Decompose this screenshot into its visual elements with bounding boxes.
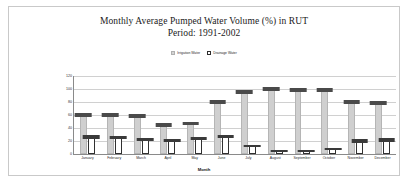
- bar-irrigation: [321, 90, 328, 154]
- legend-swatch-icon-irrigation: [171, 51, 175, 55]
- x-axis-tick-label: August: [270, 156, 281, 160]
- bar-drainage: [222, 136, 229, 154]
- bar-irrigation: [295, 90, 302, 154]
- x-axis-tick-label: September: [293, 156, 310, 160]
- error-bar-cap: [129, 114, 146, 118]
- y-axis-tick-label: 60: [68, 113, 72, 117]
- bar-drainage: [195, 139, 202, 154]
- bar-irrigation: [268, 89, 275, 154]
- bar-drainage: [115, 138, 122, 154]
- chart-legend: Irrigation Water Drainage Water: [9, 51, 399, 55]
- bar-group: November: [342, 76, 369, 154]
- chart-title-block: Monthly Average Pumped Water Volume (%) …: [9, 15, 399, 39]
- bar-drainage: [383, 140, 390, 154]
- error-bar-cap: [244, 145, 261, 147]
- x-axis-tick-label: February: [107, 156, 121, 160]
- bar-irrigation: [134, 116, 141, 154]
- y-axis-tick-label: 120: [66, 74, 72, 78]
- error-bar-cap: [182, 122, 199, 126]
- y-axis-tick-label: 100: [66, 87, 72, 91]
- bar-drainage: [88, 137, 95, 154]
- y-axis-tick-label: 80: [68, 100, 72, 104]
- legend-item-drainage: Drainage Water: [207, 51, 237, 55]
- error-bar-cap: [290, 88, 307, 92]
- error-bar-cap: [209, 100, 226, 104]
- x-axis-tick-label: July: [245, 156, 251, 160]
- error-bar-cap: [137, 138, 154, 142]
- plot-area: 020406080100120 JanuaryFebruaryMarchApri…: [73, 76, 396, 155]
- bar-group: June: [208, 76, 235, 154]
- legend-item-irrigation: Irrigation Water: [171, 51, 200, 55]
- legend-swatch-icon-drainage: [207, 51, 211, 55]
- error-bar-cap: [370, 101, 387, 105]
- x-axis-tick-label: October: [323, 156, 335, 160]
- error-bar-cap: [156, 123, 173, 127]
- y-axis-tick-label: 0: [70, 152, 72, 156]
- error-bar-cap: [190, 137, 207, 140]
- bar-irrigation: [348, 102, 355, 154]
- bar-irrigation: [107, 115, 114, 154]
- bar-group: September: [289, 76, 316, 154]
- error-bar-cap: [298, 150, 315, 152]
- error-bar-cap: [317, 88, 334, 92]
- error-bar-cap: [271, 150, 288, 152]
- bar-drainage: [249, 146, 256, 154]
- x-axis-tick-label: March: [136, 156, 146, 160]
- bar-drainage: [168, 141, 175, 154]
- x-axis-tick-label: January: [81, 156, 93, 160]
- chart-subtitle: Period: 1991-2002: [9, 27, 399, 39]
- bar-group: October: [315, 76, 342, 154]
- error-bar-cap: [75, 113, 92, 117]
- x-axis-tick-label: December: [374, 156, 390, 160]
- error-bar-cap: [378, 138, 395, 142]
- legend-label-drainage: Drainage Water: [213, 51, 237, 55]
- error-bar-cap: [236, 90, 253, 94]
- y-axis-tick-label: 40: [68, 126, 72, 130]
- x-axis-tick-label: June: [218, 156, 226, 160]
- bar-group: May: [181, 76, 208, 154]
- error-bar-cap: [217, 135, 234, 139]
- bar-group: March: [128, 76, 155, 154]
- bar-groups: JanuaryFebruaryMarchAprilMayJuneJulyAugu…: [74, 76, 396, 154]
- error-bar-cap: [83, 135, 100, 139]
- page-title: Monthly Average Pumped Water Volume (%) …: [9, 15, 399, 27]
- error-bar-cap: [164, 139, 181, 142]
- bar-group: April: [154, 76, 181, 154]
- bar-group: August: [262, 76, 289, 154]
- error-bar-cap: [110, 136, 127, 140]
- error-bar-cap: [102, 113, 119, 117]
- y-axis-tick-label: 20: [68, 139, 72, 143]
- bar-drainage: [356, 141, 363, 154]
- x-axis-tick-label: April: [164, 156, 171, 160]
- bar-irrigation: [375, 103, 382, 154]
- error-bar-cap: [351, 139, 368, 143]
- error-bar-cap: [263, 87, 280, 91]
- error-bar-cap: [343, 100, 360, 104]
- chart-frame: Monthly Average Pumped Water Volume (%) …: [8, 6, 400, 176]
- legend-label-irrigation: Irrigation Water: [177, 51, 200, 55]
- bar-group: December: [369, 76, 396, 154]
- bar-group: July: [235, 76, 262, 154]
- bar-group: February: [101, 76, 128, 154]
- x-axis-tick-label: November: [348, 156, 364, 160]
- bar-group: January: [74, 76, 101, 154]
- error-bar-cap: [325, 148, 342, 150]
- bar-irrigation: [214, 102, 221, 154]
- bar-drainage: [142, 140, 149, 154]
- x-axis-tick-label: May: [191, 156, 198, 160]
- x-axis-label: Month: [9, 167, 399, 172]
